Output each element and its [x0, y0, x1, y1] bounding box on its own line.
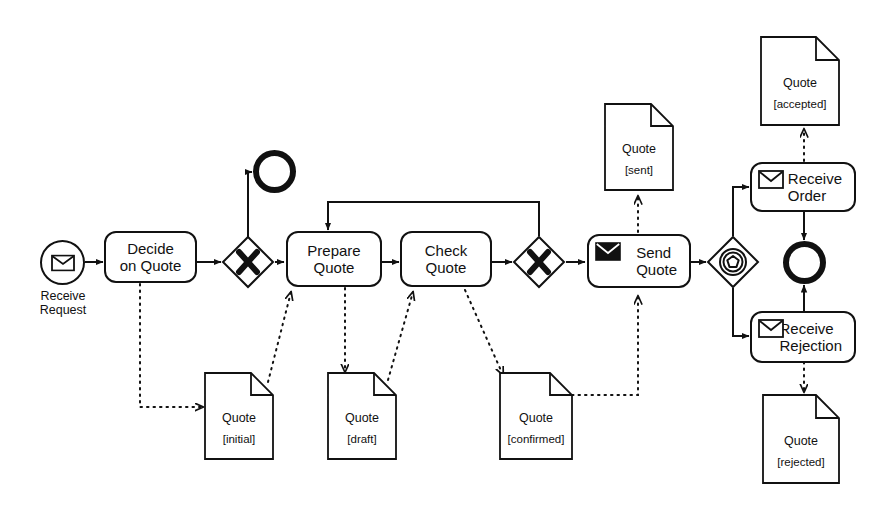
bpmn-diagram-canvas: Receive Request Decideon Quote PrepareQu… [0, 0, 889, 510]
end-event-cancel[interactable] [253, 150, 296, 193]
data-object-quote-rejected[interactable]: Quote [rejected] [762, 394, 840, 484]
data-object-name: Quote [604, 142, 674, 156]
task-receive-order[interactable]: ReceiveOrder [750, 162, 856, 212]
data-object-name: Quote [327, 411, 397, 425]
assoc-decide-to-quote-initial [140, 284, 203, 407]
task-send-label: SendQuote [632, 244, 681, 278]
assoc-check-to-quote-confirmed [465, 290, 503, 375]
data-object-state: [accepted] [760, 97, 840, 111]
data-object-name: Quote [204, 411, 274, 425]
envelope-outline-icon [758, 319, 784, 338]
assoc-quote-initial-to-prepare [268, 292, 291, 382]
task-receive-order-label: ReceiveOrder [784, 170, 846, 204]
flow-gateway3-to-receive-rejection [733, 288, 749, 336]
start-event-label: Receive Request [17, 289, 109, 317]
task-decide-label: Decideon Quote [116, 240, 186, 274]
assoc-quote-draft-to-check [388, 292, 413, 380]
exclusive-gateway-1[interactable] [221, 235, 275, 289]
exclusive-gateway-2[interactable] [512, 235, 566, 289]
data-object-quote-sent[interactable]: Quote [sent] [604, 103, 674, 191]
event-based-gateway[interactable] [706, 235, 760, 289]
data-object-quote-confirmed[interactable]: Quote [confirmed] [499, 372, 573, 460]
task-decide-on-quote[interactable]: Decideon Quote [104, 231, 197, 283]
end-event-complete[interactable] [783, 241, 826, 284]
start-event-receive-request[interactable] [40, 240, 85, 285]
data-object-name: Quote [760, 76, 840, 90]
task-prepare-quote[interactable]: PrepareQuote [286, 231, 382, 287]
data-object-quote-accepted[interactable]: Quote [accepted] [760, 36, 840, 126]
task-receive-rejection[interactable]: ReceiveRejection [750, 311, 856, 363]
data-object-name: Quote [499, 411, 573, 425]
flow-gateway3-to-receive-order [733, 187, 749, 236]
task-check-quote[interactable]: CheckQuote [400, 231, 492, 287]
envelope-outline-icon [758, 170, 784, 189]
data-object-state: [draft] [327, 432, 397, 446]
task-send-quote[interactable]: SendQuote [587, 234, 691, 288]
data-object-state: [confirmed] [499, 432, 573, 446]
data-object-name: Quote [762, 434, 840, 448]
data-object-state: [initial] [204, 432, 274, 446]
envelope-outline-icon [51, 254, 75, 271]
envelope-filled-icon [595, 242, 621, 261]
data-object-quote-initial[interactable]: Quote [initial] [204, 372, 274, 460]
data-object-state: [rejected] [762, 455, 840, 469]
data-object-state: [sent] [604, 163, 674, 177]
assoc-quote-confirmed-to-send [572, 296, 638, 395]
task-check-label: CheckQuote [421, 242, 472, 276]
task-prepare-label: PrepareQuote [303, 242, 364, 276]
data-object-quote-draft[interactable]: Quote [draft] [327, 372, 397, 460]
task-receive-rejection-label: ReceiveRejection [775, 320, 846, 354]
